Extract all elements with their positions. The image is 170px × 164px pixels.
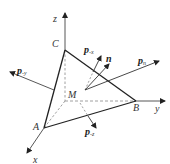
label-point-m: M [67,89,77,100]
label-axis-x: x [32,154,38,164]
label-point-a: A [32,121,40,132]
label-point-b: B [133,102,139,113]
vector-n [85,64,109,90]
tetrahedron-face-abc [44,50,136,128]
label-vector-p-neg-x: p-x [83,44,94,55]
label-vector-p-neg-z: p-z [84,126,95,137]
tetrahedron-stress-diagram: C M A B z y x p-y p-x n pn p-z [0,0,170,164]
label-axis-y: y [154,103,160,114]
label-axis-z: z [52,13,57,24]
label-vector-n: n [106,53,112,64]
label-point-c: C [52,38,59,49]
label-vector-p-n: pn [137,55,146,66]
label-vector-p-neg-y: p-y [16,65,27,76]
